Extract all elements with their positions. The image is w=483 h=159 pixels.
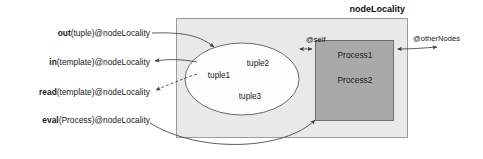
operation-name-eval: eval (42, 115, 58, 125)
process-label-1: Process1 (338, 50, 373, 60)
operation-name-read: read (39, 87, 57, 97)
operation-args-out: (tuple) (71, 28, 95, 38)
operation-args-in: (template) (57, 57, 95, 67)
process-label-2: Process2 (338, 75, 373, 85)
channel-label-self: @self (306, 35, 326, 44)
tuple-label-3: tuple3 (239, 92, 262, 101)
operation-label-read: read(template)@nodeLocality (39, 87, 151, 97)
operation-target-out: @nodeLocality (94, 28, 150, 38)
node-locality-title: nodeLocality (349, 4, 405, 14)
tuple-label-2: tuple2 (247, 59, 270, 68)
operation-target-eval: @nodeLocality (94, 115, 150, 125)
operation-args-eval: (Process) (59, 115, 95, 125)
channel-label-other-nodes: @otherNodes (413, 34, 460, 43)
operation-label-eval: eval(Process)@nodeLocality (42, 115, 150, 125)
tuple-label-1: tuple1 (208, 71, 231, 80)
operation-name-in: in (49, 57, 56, 67)
tuple-space-ellipse (185, 43, 299, 115)
operation-name-out: out (58, 28, 71, 38)
operation-target-in: @nodeLocality (94, 57, 150, 67)
operation-label-out: out(tuple)@nodeLocality (58, 28, 151, 38)
tuple-space-diagram: nodeLocality tuple1 tuple2 tuple3 Proces… (0, 0, 483, 159)
operation-args-read: (template) (57, 87, 95, 97)
operation-target-read: @nodeLocality (94, 87, 150, 97)
diagram-root: nodeLocality tuple1 tuple2 tuple3 Proces… (0, 0, 483, 159)
operation-label-in: in(template)@nodeLocality (49, 57, 150, 67)
